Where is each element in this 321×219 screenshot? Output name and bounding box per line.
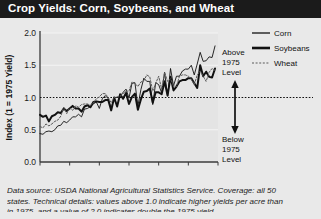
- plot-area: 0.00.51.01.52.0 195019601970198019902000…: [0, 18, 321, 168]
- annotation-above-line2: 1975: [222, 58, 240, 67]
- chart-title-bar: Crop Yields: Corn, Soybeans, and Wheat: [0, 0, 321, 18]
- chart-svg: 0.00.51.01.52.0 195019601970198019902000…: [0, 18, 321, 168]
- x-tick-label: 1950: [31, 166, 50, 168]
- chart-figure: Crop Yields: Corn, Soybeans, and Wheat 0…: [0, 0, 321, 219]
- annotation-above-line1: Above: [222, 48, 245, 57]
- x-tick-label: 1990: [149, 166, 168, 168]
- legend-label-wheat: Wheat: [274, 59, 298, 68]
- y-tick-label: 2.0: [24, 28, 36, 38]
- y-tick-label: 1.5: [24, 60, 36, 70]
- legend-label-corn: Corn: [274, 29, 291, 38]
- x-tick-label: 2010: [209, 166, 228, 168]
- page-title: Crop Yields: Corn, Soybeans, and Wheat: [8, 2, 234, 14]
- annotation-below-line1: Below: [222, 135, 244, 144]
- footnote-line-1: Data source: USDA National Agricultural …: [7, 186, 316, 197]
- y-tick-label: 1.0: [24, 93, 36, 103]
- x-tick-label: 2000: [179, 166, 198, 168]
- legend-label-soybeans: Soybeans: [274, 44, 310, 53]
- footnote-line-3: in 1975, and a value of 2.0 indicates do…: [7, 207, 316, 212]
- x-tick-label: 1970: [90, 166, 109, 168]
- footnote-line-2: states. Technical details: values above …: [7, 197, 316, 208]
- x-tick-label: 1960: [60, 166, 79, 168]
- footnote: Data source: USDA National Agricultural …: [7, 186, 316, 212]
- annotation-above-line3: Level: [222, 68, 241, 77]
- y-axis-label: Index (1 = 1975 Yield): [4, 54, 14, 140]
- annotation-below-line3: Level: [222, 155, 241, 164]
- x-tick-label: 1980: [120, 166, 139, 168]
- annotation-below-line2: 1975: [222, 145, 240, 154]
- y-tick-label: 0.5: [24, 125, 36, 135]
